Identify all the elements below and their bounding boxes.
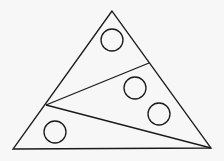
circle-middle-region-2 [148, 103, 170, 125]
outer-triangle [13, 11, 211, 149]
circle-middle-region-1 [124, 77, 146, 99]
divider-line-lower [46, 105, 211, 148]
circle-top-region [101, 29, 123, 51]
circle-bottom-region [44, 121, 66, 143]
triangle-diagram [0, 0, 224, 161]
